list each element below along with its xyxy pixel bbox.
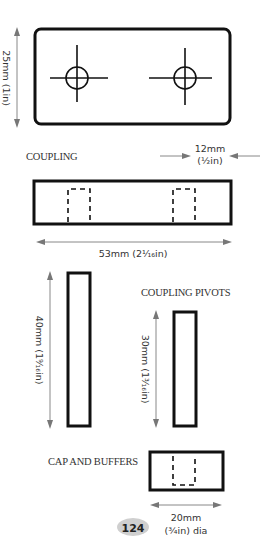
crosshair-hole-left: [50, 45, 108, 102]
long-bar-dimension: 40mm (1⁹⁄₁₆in): [34, 271, 53, 429]
cap-diameter-mm: 20mm: [171, 512, 202, 523]
coupling-length-label: 53mm (2¹⁄₁₆in): [99, 248, 168, 259]
coupling-height-dimension: 25mm (1in): [1, 27, 20, 128]
cap-and-buffers-label: CAP AND BUFFERS: [48, 456, 138, 467]
hidden-pivot-left: [68, 189, 90, 222]
pivot-length-label: 30mm (1³⁄₁₆in): [140, 335, 151, 404]
hidden-pivot-right: [173, 189, 195, 222]
page-number-badge: 124: [117, 518, 149, 536]
coupling-pivots-label: COUPLING PIVOTS: [141, 287, 231, 298]
cap-and-buffers: [150, 452, 223, 490]
coupling-side-outline: [34, 181, 231, 224]
cap-diameter-dimension: 20mm (¾in) dia: [150, 502, 222, 536]
coupling-plate: [35, 29, 230, 124]
crosshair-hole-right: [149, 48, 212, 105]
coupling-height-label: 25mm (1in): [1, 50, 12, 106]
diagram-canvas: 25mm (1in) COUPLING 12mm (½in) 53mm (2¹⁄…: [0, 0, 269, 557]
hole-spacing-mm: 12mm: [195, 143, 226, 154]
coupling-length-dimension: 53mm (2¹⁄₁₆in): [36, 239, 232, 259]
cap-outline: [150, 452, 223, 490]
hole-spacing-in: (½in): [197, 155, 222, 166]
hole-spacing-dimension: 12mm (½in): [160, 143, 260, 166]
long-bar-length-label: 40mm (1⁹⁄₁₆in): [34, 316, 45, 385]
long-bar: [68, 273, 90, 426]
coupling-side-view: [34, 181, 231, 224]
hidden-buffer-recess: [173, 456, 195, 485]
cap-diameter-in: (¾in) dia: [165, 525, 208, 536]
coupling-label: COUPLING: [26, 151, 78, 162]
coupling-plate-outline: [35, 29, 230, 124]
coupling-pivot-bar: [174, 312, 196, 426]
page-number: 124: [122, 522, 145, 535]
pivot-length-dimension: 30mm (1³⁄₁₆in): [140, 310, 159, 428]
